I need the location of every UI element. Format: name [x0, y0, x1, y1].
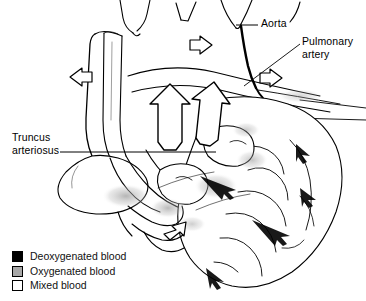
legend-item-deoxygenated: Deoxygenated blood — [12, 250, 126, 264]
label-pulmonary-artery: Pulmonaryartery — [302, 35, 353, 60]
upper-right-outflow-arrow — [190, 36, 212, 54]
label-truncus-line1: Truncus — [12, 131, 50, 143]
aorta-vessel — [241, 26, 263, 98]
blood-type-legend: Deoxygenated blood Oxygenated blood Mixe… — [12, 250, 126, 294]
truncus-inflow-arrow-left — [150, 84, 190, 150]
legend-swatch-mixed — [12, 280, 23, 291]
legend-item-mixed: Mixed blood — [12, 279, 126, 293]
label-pulmonary-artery-line1: Pulmonary — [302, 35, 353, 47]
legend-label-oxygenated: Oxygenated blood — [30, 266, 115, 277]
label-aorta: Aorta — [261, 17, 287, 30]
legend-item-oxygenated: Oxygenated blood — [12, 265, 126, 279]
truncus-arteriosus-trunk — [86, 31, 126, 158]
label-truncus-arteriosus: Truncusarteriosus — [12, 131, 59, 156]
legend-swatch-oxygenated — [12, 266, 23, 277]
legend-label-deoxygenated: Deoxygenated blood — [30, 251, 126, 262]
legend-label-mixed: Mixed blood — [30, 280, 87, 291]
legend-swatch-deoxygenated — [12, 251, 23, 262]
heart-diagram-figure: Aorta Pulmonaryartery Truncusarteriosus … — [0, 0, 366, 301]
label-truncus-line2: arteriosus — [12, 144, 59, 156]
label-pulmonary-artery-line2: artery — [302, 48, 329, 60]
